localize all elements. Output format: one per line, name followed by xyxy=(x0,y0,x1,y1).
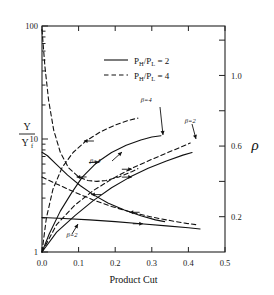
legend-slash-p: /P xyxy=(144,56,152,66)
beta-annotations: β=4β=4β=2β=2 xyxy=(66,96,197,238)
y-axis-left-numerator: Y xyxy=(23,121,30,132)
series-line xyxy=(42,143,190,252)
annotation-leader xyxy=(160,107,163,135)
y-axis-left-denominator: Y xyxy=(21,137,28,148)
y-right-tick-label: 1.0 xyxy=(231,71,242,81)
x-axis-title: Product Cut xyxy=(109,274,157,285)
y-axis-right-tick-labels: 0.20.61.0 xyxy=(231,71,242,222)
x-tick-label: 0.0 xyxy=(37,258,48,268)
x-tick-label: 0.5 xyxy=(220,258,231,268)
legend-slash-p: /P xyxy=(144,71,152,81)
annotation-arrowhead xyxy=(193,135,197,139)
legend-value: = 2 xyxy=(155,56,169,66)
beta-annotation-label: β=4 xyxy=(140,96,153,103)
y-left-tick-label: 1 xyxy=(34,247,38,257)
arrow-head xyxy=(130,210,134,214)
x-axis-title-text: Product Cut xyxy=(109,274,157,285)
legend-label: PH/PL = 4 xyxy=(134,71,170,83)
series-line xyxy=(42,136,161,252)
arrow-head xyxy=(128,167,132,171)
y-right-tick-label: 0.2 xyxy=(231,212,242,222)
chart-canvas: 0.00.10.20.30.40.5 110100 0.20.61.0 β=4β… xyxy=(0,0,274,295)
data-curves xyxy=(42,30,200,252)
x-tick-label: 0.3 xyxy=(146,258,157,268)
x-tick-label: 0.2 xyxy=(110,258,121,268)
y-axis-right-title: ρ xyxy=(250,137,258,153)
beta-annotation-label: β=2 xyxy=(184,117,197,124)
x-tick-label: 0.1 xyxy=(73,258,84,268)
y-axis-right-title-text: ρ xyxy=(250,137,258,153)
legend: PH/PL = 2PH/PL = 4 xyxy=(104,56,170,83)
arrow-head xyxy=(139,222,143,226)
y-right-tick-label: 0.6 xyxy=(231,141,242,151)
curve-direction-arrows xyxy=(77,139,143,226)
figure-container: 0.00.10.20.30.40.5 110100 0.20.61.0 β=4β… xyxy=(0,0,274,295)
y-axis-right-ticks xyxy=(219,40,225,217)
arrow-head xyxy=(128,175,132,179)
legend-value: = 4 xyxy=(155,71,170,81)
x-tick-label: 0.4 xyxy=(183,258,194,268)
series-line xyxy=(42,152,192,252)
y-left-tick-label: 100 xyxy=(25,21,38,31)
beta-annotation-label: β=2 xyxy=(66,231,79,238)
legend-label: PH/PL = 2 xyxy=(134,56,169,68)
x-axis-tick-labels: 0.00.10.20.30.40.5 xyxy=(37,258,231,268)
beta-annotation-label: β=4 xyxy=(89,157,102,164)
